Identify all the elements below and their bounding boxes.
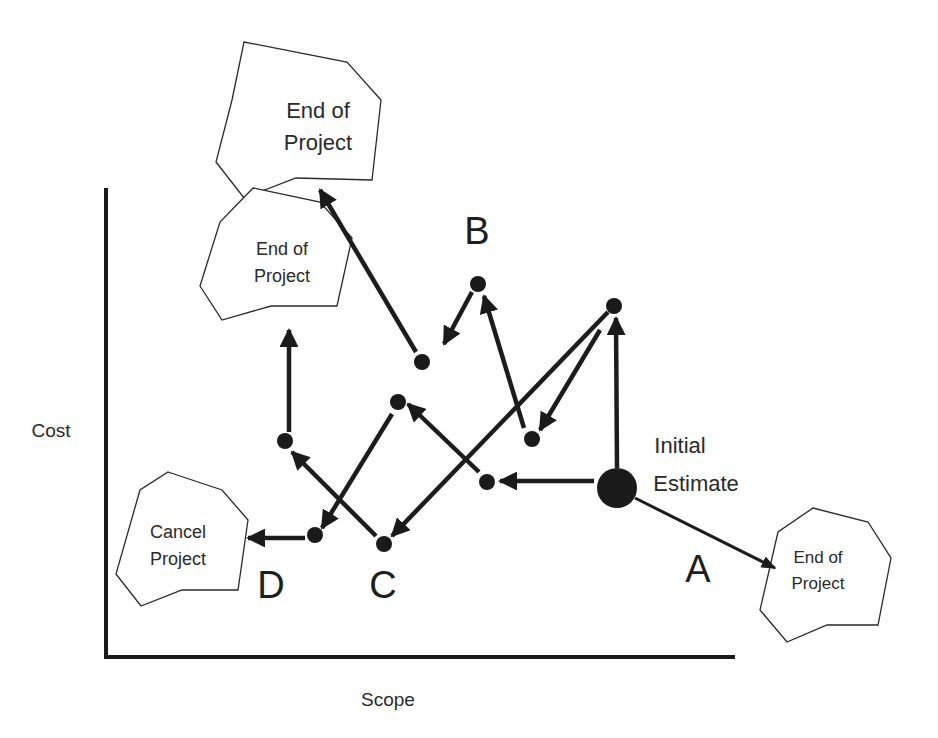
path-letter-c: C [369, 564, 396, 606]
outcome-label-line2: Project [254, 266, 310, 286]
outcome-label-line1: End of [286, 98, 350, 123]
node-n-b2 [414, 354, 430, 370]
node-n-285 [277, 433, 293, 449]
initial-estimate-node [597, 468, 637, 508]
outcome-label-line2: Project [284, 130, 352, 155]
outcome-label-line2: Project [792, 574, 845, 593]
outcome-end-top: End ofProject [216, 42, 381, 198]
initial-estimate-label-line1: Initial [654, 433, 705, 458]
outcome-cancel: CancelProject [116, 472, 248, 606]
arrow-a-532-btop [484, 296, 524, 428]
node-n-c [376, 536, 392, 552]
arrow-a-topright-532 [540, 330, 600, 430]
axes: Cost Scope [31, 190, 733, 710]
node-n-532 [524, 431, 540, 447]
outcome-end-a: End ofProject [760, 508, 891, 642]
arrow-a-btop-b2 [444, 292, 472, 344]
node-n-topright [606, 298, 622, 314]
outcome-shapes: End ofProjectEnd ofProjectEnd ofProjectC… [116, 42, 891, 642]
arrow-a-400-d [322, 414, 392, 528]
outcome-label-line1: End of [793, 548, 842, 567]
x-axis-label: Scope [361, 689, 415, 710]
cost-scope-diagram: Cost Scope End ofProjectEnd ofProjectEnd… [0, 0, 938, 738]
path-letter-d: D [257, 564, 284, 606]
node-n-d [307, 527, 323, 543]
outcome-label-line1: Cancel [150, 522, 206, 542]
outcome-label-line2: Project [150, 549, 206, 569]
node-n-400 [390, 394, 406, 410]
path-letter-a: A [685, 548, 711, 590]
arrow-a-487-400 [408, 404, 479, 472]
estimate-nodes [277, 276, 622, 552]
y-axis-label: Cost [31, 420, 71, 441]
node-n-btop [470, 276, 486, 292]
arrow-a-start-up [616, 318, 617, 468]
path-letter-b: B [464, 210, 489, 252]
initial-estimate-label-line2: Estimate [653, 471, 739, 496]
outcome-label-line1: End of [256, 239, 309, 259]
node-n-487 [479, 474, 495, 490]
